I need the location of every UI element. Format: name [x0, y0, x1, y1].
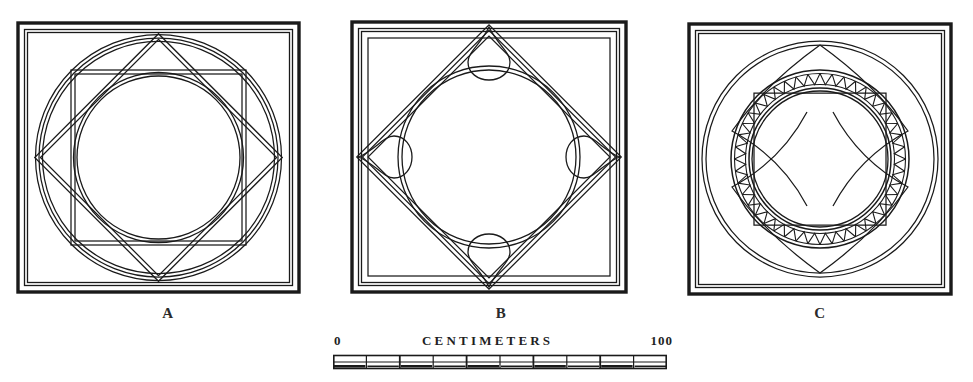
- figure-label-c: C: [800, 305, 840, 322]
- figure-label-b: B: [481, 305, 521, 322]
- plate-drawing: [0, 0, 973, 382]
- figure-label-a: A: [148, 305, 188, 322]
- scale-max-label: 100: [651, 333, 674, 349]
- scale-labels: 0 CENTIMETERS 100: [330, 333, 675, 353]
- scale-bar: 0 CENTIMETERS 100: [330, 333, 675, 377]
- figure-c-drawing: [689, 23, 951, 294]
- scale-bar-graphic: [333, 354, 667, 370]
- figure-a-drawing: [18, 23, 299, 292]
- scale-zero-label: 0: [334, 333, 343, 349]
- scale-bar-svg: [333, 354, 667, 370]
- scale-title: CENTIMETERS: [422, 333, 553, 349]
- figure-b-drawing: [352, 22, 626, 292]
